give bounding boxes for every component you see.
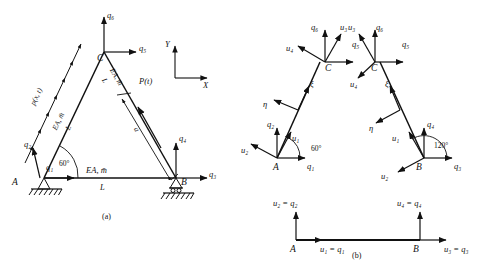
label-b-u2-eq-q2: u₂ = q₂	[273, 199, 297, 208]
label-b-angle-60: 60°	[311, 145, 322, 153]
label-b-q4-B: q₄	[427, 120, 434, 129]
local-axes-left	[274, 86, 309, 110]
label-a-angle-60: 60°	[59, 160, 70, 168]
label-a-q3: q₃	[209, 170, 216, 179]
arrow-eta-left	[274, 100, 298, 110]
label-b-u1-A: u₁	[292, 134, 299, 143]
arrow-b-u3-left	[325, 34, 341, 62]
label-a-node-B: B	[181, 178, 187, 188]
arrow-q2	[33, 148, 40, 178]
arrow-b-u1-A	[277, 132, 291, 158]
global-axes	[175, 46, 207, 78]
label-b-node-B: B	[416, 163, 422, 173]
label-b-node-C-left: C	[325, 64, 331, 74]
label-b-q5-right: q₅	[402, 40, 409, 49]
label-a-axis-Y: Y	[165, 40, 170, 49]
caption-b: (b)	[352, 252, 361, 260]
label-a-bottom-member-length: L	[100, 183, 105, 192]
label-b-xi-left: ξ	[310, 80, 314, 89]
arrow-b-u2-A	[251, 144, 277, 158]
label-b-bottom-node-B: B	[413, 245, 419, 255]
local-axes-right	[376, 86, 400, 123]
label-a-axis-X: X	[203, 81, 208, 90]
label-b-eta-left: η	[263, 100, 267, 109]
label-a-concentrated-load: P(t)	[139, 77, 152, 86]
label-b-node-A: A	[273, 163, 279, 173]
label-a-q5: q₅	[139, 44, 146, 53]
label-b-u1-B: u₁	[392, 134, 399, 143]
label-b-u4-right: u₄	[350, 80, 357, 89]
label-b-u1-eq-q1: u₁ = q₁	[320, 245, 344, 254]
arrow-xi-left	[298, 86, 309, 110]
label-b-bottom-node-A: A	[290, 245, 296, 255]
label-a-bottom-member-prop: EA, m̄	[86, 166, 107, 175]
label-a-q1: q₁	[46, 163, 53, 172]
label-b-q6-right: q₆	[376, 23, 383, 32]
label-a-q6: q₆	[107, 11, 114, 20]
caption-a: (a)	[102, 213, 111, 221]
label-b-u2-A: u₂	[241, 146, 248, 155]
label-b-u2-B: u₂	[381, 172, 388, 181]
arrow-xi-right	[390, 86, 400, 110]
label-a-q4: q₄	[179, 134, 186, 143]
label-b-q6-left: q₆	[311, 23, 318, 32]
label-b-angle-120: 120°	[434, 142, 448, 150]
label-b-u3-right: u₃	[348, 23, 355, 32]
label-a-node-A: A	[12, 178, 18, 188]
label-b-u4-left: u₄	[286, 44, 293, 53]
roller-support-B	[161, 178, 194, 199]
label-b-u3-left: u₃	[340, 23, 347, 32]
label-b-q3-B: q₃	[454, 162, 461, 171]
label-b-node-C-right: C	[371, 64, 377, 74]
arrow-b-u3-right	[359, 34, 375, 62]
label-b-eta-right: η	[369, 124, 373, 133]
figure-canvas: q₆ q₅ q₂ q₁ q₃ q₄ A B C 60° p(x, t) EA, …	[0, 0, 479, 261]
member-b-CB	[380, 62, 424, 158]
label-b-u4-eq-q4: u₄ = q₄	[397, 199, 421, 208]
pin-support-A	[29, 178, 62, 195]
label-b-xi-right: ξ	[385, 80, 389, 89]
arrow-eta-right	[376, 110, 400, 123]
label-b-u3-eq-q3: u₃ = q₃	[444, 245, 468, 254]
label-b-q5-left: q₅	[352, 40, 359, 49]
label-a-node-C: C	[97, 54, 103, 64]
label-b-q2-A: q₂	[267, 120, 274, 129]
label-a-q2: q₂	[24, 140, 31, 149]
label-b-q1-A: q₁	[307, 162, 314, 171]
arrow-b-u4-left	[298, 46, 325, 62]
